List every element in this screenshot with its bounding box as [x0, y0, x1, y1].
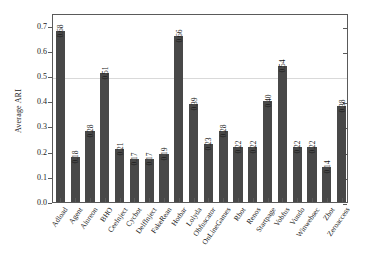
- y-tick-mark-right: [343, 53, 347, 54]
- x-tick-mark: [105, 198, 106, 202]
- bar-value-label: 0.14: [323, 160, 331, 173]
- bar-value-label: 0.22: [294, 140, 302, 153]
- bar-value-label: 0.17: [146, 153, 154, 166]
- bar: [233, 147, 242, 202]
- x-tick-mark: [327, 198, 328, 202]
- bar-value-label: 0.54: [279, 59, 287, 72]
- bar-value-label: 0.23: [205, 137, 213, 150]
- bar: [204, 144, 213, 202]
- y-tick-mark-right: [343, 28, 347, 29]
- bar: [248, 147, 257, 202]
- x-tick-mark: [134, 198, 135, 202]
- gridline-0-5: [53, 78, 347, 79]
- x-tick-mark: [297, 198, 298, 202]
- bar: [337, 106, 346, 202]
- bar-value-label: 0.22: [309, 140, 317, 153]
- y-tick-label: 0.0: [19, 199, 47, 207]
- bar-value-label: 0.38: [338, 100, 346, 113]
- bar-value-label: 0.40: [264, 95, 272, 108]
- bar: [263, 101, 272, 202]
- y-tick-label: 0.2: [19, 149, 47, 157]
- bar-value-label: 0.17: [131, 153, 139, 166]
- x-tick-mark: [179, 198, 180, 202]
- x-tick-mark: [75, 198, 76, 202]
- x-tick-mark: [194, 198, 195, 202]
- x-tick-mark: [164, 198, 165, 202]
- bar-value-label: 0.22: [235, 140, 243, 153]
- bar: [100, 73, 109, 202]
- y-tick-label: 0.6: [19, 48, 47, 56]
- y-tick-label: 0.1: [19, 174, 47, 182]
- bar-chart-figure: Average ARI 0.00.10.20.30.40.50.60.7 0.6…: [0, 0, 365, 280]
- bar-value-label: 0.39: [190, 97, 198, 110]
- bar-value-label: 0.19: [161, 147, 169, 160]
- x-tick-mark: [208, 198, 209, 202]
- y-tick-label: 0.3: [19, 123, 47, 131]
- bar-value-label: 0.68: [57, 24, 65, 37]
- x-tick-mark: [268, 198, 269, 202]
- bar-value-label: 0.22: [249, 140, 257, 153]
- bar: [293, 147, 302, 202]
- bar: [189, 104, 198, 202]
- x-tick-mark: [60, 198, 61, 202]
- plot-inner: 0.680.180.280.510.210.170.170.190.660.39…: [53, 15, 347, 202]
- bar: [115, 149, 124, 202]
- bar: [278, 66, 287, 202]
- x-tick-mark: [238, 198, 239, 202]
- x-tick-mark: [312, 198, 313, 202]
- bar-value-label: 0.51: [101, 67, 109, 80]
- x-tick-mark: [223, 198, 224, 202]
- bar: [219, 131, 228, 202]
- bar-value-label: 0.28: [87, 125, 95, 138]
- bar-value-label: 0.66: [175, 29, 183, 42]
- plot-area: 0.680.180.280.510.210.170.170.190.660.39…: [52, 14, 348, 203]
- bar-value-label: 0.18: [72, 150, 80, 163]
- y-tick-label: 0.7: [19, 23, 47, 31]
- bar: [174, 36, 183, 202]
- bar: [85, 131, 94, 202]
- y-tick-mark: [48, 203, 52, 204]
- y-tick-label: 0.5: [19, 73, 47, 81]
- bar: [130, 159, 139, 202]
- y-tick-label: 0.4: [19, 98, 47, 106]
- bar: [56, 31, 65, 202]
- x-tick-mark: [342, 198, 343, 202]
- bar: [159, 154, 168, 202]
- bar: [307, 147, 316, 202]
- x-tick-mark: [120, 198, 121, 202]
- x-tick-mark: [282, 198, 283, 202]
- bar-value-label: 0.21: [116, 142, 124, 155]
- x-tick-mark: [253, 198, 254, 202]
- x-tick-mark: [149, 198, 150, 202]
- x-tick-mark: [90, 198, 91, 202]
- bar: [145, 159, 154, 202]
- bar-value-label: 0.28: [220, 125, 228, 138]
